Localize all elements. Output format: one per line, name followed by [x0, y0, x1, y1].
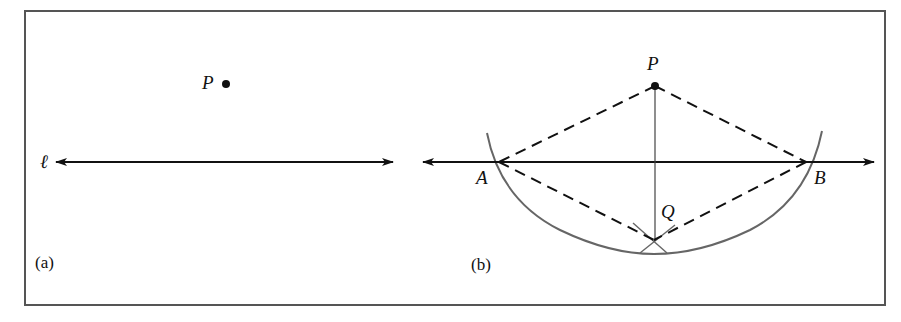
point-p-label: P: [646, 53, 659, 74]
point-p-label: P: [201, 72, 214, 93]
panel-a: ℓ P (a): [35, 72, 393, 272]
panel-b: P A B Q (b): [423, 53, 874, 274]
figure-frame: [25, 11, 885, 305]
point-b-label: B: [814, 167, 826, 188]
panel-b-caption: (b): [471, 255, 491, 274]
point-a-label: A: [474, 167, 488, 188]
dashed-pb: [655, 86, 806, 162]
line-l-label: ℓ: [40, 151, 48, 172]
dashed-bq: [654, 162, 806, 240]
point-p-dot: [222, 80, 230, 88]
panel-a-caption: (a): [35, 253, 54, 272]
point-p-dot: [651, 82, 659, 90]
geometry-figure: ℓ P (a) P A B Q (b): [0, 0, 901, 322]
dashed-pa: [499, 86, 655, 162]
dashed-aq: [499, 162, 654, 240]
point-q-label: Q: [661, 201, 675, 222]
